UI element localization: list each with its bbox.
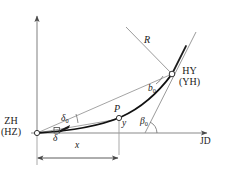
point-label-hy-primary: HY [179,66,200,77]
beta-zero-arc [150,122,157,133]
b-zero-label: b0 [148,84,156,94]
beta-zero-subscript: 0 [145,120,148,127]
b-zero-subscript: 0 [153,87,156,94]
point-label-p: P [114,104,120,115]
point-label-zh-secondary: (HZ) [1,127,21,138]
point-marker-hy [169,71,175,77]
transition-curve-diagram: ZH (HZ) HY (YH) P R δ0 δ b0 β0 x y JD [0,0,229,175]
delta-zero-label: δ0 [61,114,69,124]
point-label-zh: ZH (HZ) [1,116,21,137]
point-label-hy: HY (YH) [179,66,200,87]
jd-axis-label: JD [200,137,211,147]
delta-label: δ [53,134,57,144]
point-marker-p [116,115,121,120]
beta-zero-label: β0 [140,117,148,127]
diagram-canvas [0,0,229,175]
y-ordinate-label: y [122,119,126,129]
point-marker-zh [34,130,39,135]
point-label-zh-primary: ZH [1,116,21,127]
radius-label: R [144,35,150,46]
b-zero-arc [156,76,163,84]
delta-zero-subscript: 0 [65,117,68,124]
point-label-hy-secondary: (YH) [179,77,200,88]
x-dimension-label: x [75,141,79,151]
